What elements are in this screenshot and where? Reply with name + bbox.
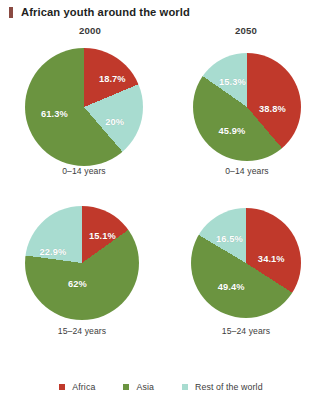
chart-legend: Africa Asia Rest of the world [0,382,322,392]
pie-chart-2000-15-24-years: 15.1%62%22.9% [25,206,139,320]
pie-sub-label: 15–24 years [2,326,162,336]
pie-graphic: 18.7%20%61.3% [25,48,143,166]
legend-swatch-africa [59,384,65,390]
pie-graphic: 38.8%45.9%15.3% [193,53,301,161]
title-marker-icon [9,7,13,18]
legend-item-rest-of-the-world: Rest of the world [182,382,263,392]
legend-item-asia: Asia [123,382,154,392]
legend-item-africa: Africa [59,382,95,392]
pie-slice-label-asia: 62% [68,279,87,289]
column-header-year-2000: 2000 [40,25,140,36]
legend-label-asia: Asia [136,382,154,392]
legend-label-africa: Africa [72,382,95,392]
chart-page: { "title": "African youth around the wor… [0,0,322,404]
pie-sub-label: 0–14 years [4,166,164,176]
page-title: African youth around the world [21,7,190,18]
pie-slice-label-asia: 61.3% [41,109,68,119]
pie-slice-label-rest-of-the-world: 22.9% [39,247,66,257]
pie-slice-label-asia: 49.4% [218,282,245,292]
pie-graphic: 34.1%49.4%16.5% [191,208,301,318]
pie-slice-label-africa: 15.1% [89,231,116,241]
pie-chart-2050-0-14-years: 38.8%45.9%15.3% [193,53,301,161]
chart-header: African youth around the world [0,7,322,18]
pie-chart-2050-15-24-years: 34.1%49.4%16.5% [191,208,301,318]
pie-slice-label-africa: 34.1% [258,254,285,264]
pie-slice-label-rest-of-the-world: 15.3% [219,77,246,87]
pie-graphic: 15.1%62%22.9% [25,206,139,320]
pie-slice-label-rest-of-the-world: 20% [105,117,124,127]
pie-slice-label-africa: 38.8% [259,104,286,114]
column-header-year-2050: 2050 [196,25,296,36]
column-headers: 2000 2050 [0,25,322,39]
legend-swatch-rest-of-the-world [182,384,188,390]
pie-slice-label-africa: 18.7% [99,74,126,84]
pie-sub-label: 15–24 years [166,326,322,336]
legend-label-rest-of-the-world: Rest of the world [195,382,263,392]
pie-chart-2000-0-14-years: 18.7%20%61.3% [25,48,143,166]
pie-slice-label-rest-of-the-world: 16.5% [216,234,243,244]
pie-slice-label-asia: 45.9% [218,126,245,136]
legend-swatch-asia [123,384,129,390]
pie-sub-label: 0–14 years [167,166,322,176]
